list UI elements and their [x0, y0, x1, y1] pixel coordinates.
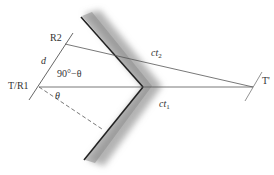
- dashed-normal: [39, 87, 102, 129]
- label-t-prime: T': [262, 75, 270, 86]
- receiver-array-line: [29, 33, 73, 100]
- label-ct2-sub: 2: [158, 52, 162, 60]
- label-theta: θ: [55, 90, 60, 101]
- label-angle-complement: 90°−θ: [57, 68, 82, 79]
- wedge-reflection-diagram: R2 T/R1 d 90°−θ θ T' ct2 ct1: [0, 0, 274, 175]
- label-ct2: ct2: [151, 47, 162, 60]
- label-d: d: [41, 55, 47, 66]
- label-r2: R2: [50, 32, 62, 43]
- label-ct1-sub: 1: [166, 103, 170, 111]
- t-prime-tick: [245, 72, 262, 101]
- label-ct1: ct1: [159, 98, 170, 111]
- label-t-r1: T/R1: [8, 80, 29, 91]
- path-ct2: [65, 44, 253, 87]
